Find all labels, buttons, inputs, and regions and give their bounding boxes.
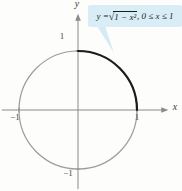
x-axis-arrow-icon [161, 107, 168, 113]
y-axis-label: y [71, 0, 83, 9]
figure: x y −1 1 1 −1 y = √ 1 − x² , 0 ≤ x ≤ 1 [0, 0, 182, 191]
formula-callout-box: y = √ 1 − x² , 0 ≤ x ≤ 1 [88, 5, 182, 27]
figure-canvas [0, 0, 182, 191]
highlighted-arc-curve [78, 51, 137, 110]
formula-radicand: 1 − x² [113, 11, 137, 22]
formula-lhs: y = [97, 11, 109, 21]
x-tick-label-pos1: 1 [131, 113, 143, 122]
y-tick-label-neg1: −1 [59, 169, 77, 178]
x-axis-label: x [169, 102, 181, 112]
callout-pointer-tail [97, 26, 114, 53]
y-axis-arrow-icon [75, 14, 81, 21]
x-tick-label-neg1: −1 [6, 113, 24, 122]
y-tick-label-pos1: 1 [56, 32, 68, 41]
formula-constraint: , 0 ≤ x ≤ 1 [137, 11, 173, 21]
